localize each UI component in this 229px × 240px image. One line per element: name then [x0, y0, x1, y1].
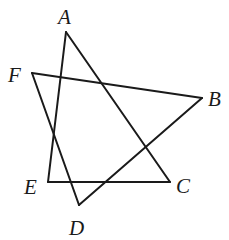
point-label-f: F: [7, 63, 21, 87]
geometry-diagram: ABCDEF: [0, 0, 229, 240]
point-label-b: B: [208, 87, 221, 111]
point-label-d: D: [68, 216, 84, 240]
segment-fd: [32, 73, 79, 205]
segment-fb: [32, 73, 202, 98]
labels-group: ABCDEF: [7, 5, 221, 240]
segment-ac: [66, 32, 170, 182]
point-label-c: C: [176, 174, 191, 198]
point-label-a: A: [56, 5, 71, 29]
point-label-e: E: [23, 175, 37, 199]
